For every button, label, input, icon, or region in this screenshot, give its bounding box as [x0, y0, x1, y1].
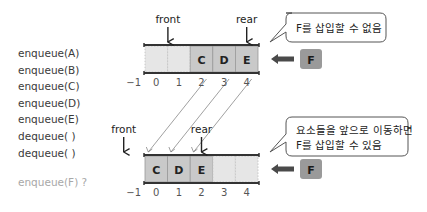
bottom-callout-line-1: 요소들을 앞으로 이동하면 [296, 124, 413, 136]
queue-cell-value: E [243, 54, 251, 67]
shift-line [148, 79, 206, 152]
index-label: 3 [221, 187, 227, 198]
bottom-callout-line-2: F를 삽입할 수 있음 [296, 139, 382, 151]
top-callout: F를 삽입할 수 없음 [270, 13, 386, 42]
queue-cell-empty [213, 156, 236, 182]
queue-cell-empty [235, 156, 258, 182]
incoming-element-label: F [307, 54, 315, 67]
front-label: front [111, 123, 136, 135]
shift-line [194, 79, 252, 152]
queue-diagram: CDE−101234frontrearF CDE−101234frontrear… [0, 0, 427, 212]
queue-cell-value: D [174, 164, 183, 177]
rear-label: rear [191, 123, 213, 135]
top-callout-text: F를 삽입할 수 없음 [296, 22, 382, 34]
index-label: 3 [221, 77, 227, 88]
shift-line [171, 79, 229, 152]
index-label: 2 [198, 187, 204, 198]
index-label: 0 [153, 77, 159, 88]
index-label: 1 [176, 187, 182, 198]
queue-cell-empty [168, 46, 191, 72]
insert-arrow-icon [271, 164, 294, 174]
index-label: −1 [126, 187, 141, 198]
front-label: front [155, 13, 180, 25]
insert-arrow-icon [271, 54, 294, 64]
index-label: 4 [244, 77, 250, 88]
bottom-callout: 요소들을 앞으로 이동하면 F를 삽입할 수 있음 [270, 117, 413, 156]
shift-lines [146, 79, 251, 152]
rear-label: rear [236, 13, 258, 25]
index-label: 1 [176, 77, 182, 88]
index-label: −1 [126, 77, 141, 88]
index-label: 0 [153, 187, 159, 198]
index-label: 4 [244, 187, 250, 198]
queue-cell-empty [145, 46, 168, 72]
incoming-element-label: F [307, 164, 315, 177]
index-label: 2 [198, 77, 204, 88]
queue-cell-value: D [220, 54, 229, 67]
queue-cell-value: E [198, 164, 206, 177]
queue-cell-value: C [152, 164, 160, 177]
queue-cell-value: C [197, 54, 205, 67]
